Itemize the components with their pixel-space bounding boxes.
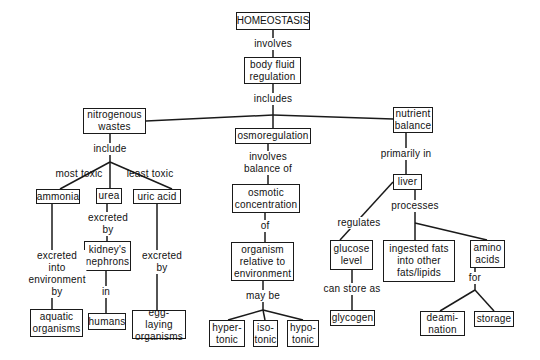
link-regulates: regulates bbox=[337, 217, 382, 229]
node-egg-laying-organisms: egg-laying organisms bbox=[132, 310, 186, 339]
link-may-be: may be bbox=[245, 290, 281, 302]
link-involves-balance-of: involves balance of bbox=[243, 151, 293, 175]
node-liver: liver bbox=[393, 174, 422, 190]
link-primarily-in: primarily in bbox=[380, 148, 433, 160]
link-of: of bbox=[260, 220, 271, 232]
node-osmoregulation: osmoregulation bbox=[235, 128, 311, 144]
link-for: for bbox=[468, 272, 482, 284]
node-hypotonic: hypo- tonic bbox=[287, 320, 319, 347]
link-include: include bbox=[92, 143, 127, 155]
node-osmotic-concentration: osmotic concentration bbox=[232, 184, 300, 213]
node-aquatic-organisms: aquatic organisms bbox=[30, 309, 83, 337]
node-amino-acids: amino acids bbox=[470, 240, 505, 268]
link-can-store-as: can store as bbox=[323, 283, 382, 295]
link-processes: processes bbox=[390, 200, 439, 212]
node-glycogen: glycogen bbox=[330, 310, 375, 326]
link-in: in bbox=[101, 286, 111, 298]
node-nutrient-balance: nutrient balance bbox=[393, 107, 433, 133]
link-excreted-by-uric: excreted by bbox=[141, 250, 183, 274]
link-excreted-by-urea: excreted by bbox=[87, 212, 129, 236]
node-uric-acid: uric acid bbox=[133, 189, 181, 204]
node-storage: storage bbox=[474, 311, 514, 327]
node-body-fluid-regulation: body fluid regulation bbox=[244, 57, 301, 84]
node-homeostasis: HOMEOSTASIS bbox=[236, 12, 310, 30]
node-deamination: deami- nation bbox=[420, 311, 465, 336]
link-involves: involves bbox=[253, 38, 293, 50]
node-humans: humans bbox=[88, 313, 126, 330]
link-excreted-into-environment: excreted into environment by bbox=[27, 250, 86, 298]
node-ammonia: ammonia bbox=[36, 189, 80, 204]
node-organism-relative-to-environment: organism relative to environment bbox=[231, 242, 294, 281]
node-kidneys-nephrons: kidney's nephrons bbox=[84, 241, 131, 271]
connector-lines bbox=[0, 0, 540, 360]
link-least-toxic: least toxic bbox=[126, 168, 175, 180]
node-hypertonic: hyper- tonic bbox=[209, 320, 245, 347]
node-urea: urea bbox=[96, 188, 122, 204]
node-glucose-level: glucose level bbox=[330, 240, 373, 270]
concept-map-canvas: HOMEOSTASIS body fluid regulation nitrog… bbox=[0, 0, 540, 360]
link-most-toxic: most toxic bbox=[54, 168, 103, 180]
node-ingested-fats: ingested fats into other fats/lipids bbox=[383, 240, 455, 282]
node-nitrogenous-wastes: nitrogenous wastes bbox=[83, 108, 146, 134]
link-includes: includes bbox=[253, 93, 293, 105]
node-isotonic: iso- tonic bbox=[253, 320, 278, 347]
